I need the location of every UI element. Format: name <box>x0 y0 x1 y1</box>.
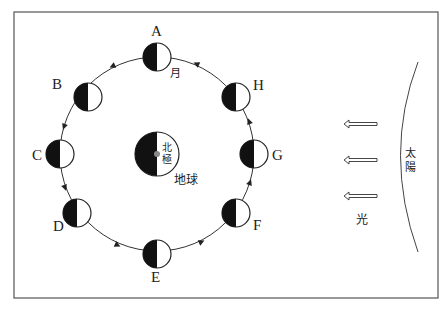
earth <box>135 132 179 176</box>
north-pole-dot <box>154 151 160 157</box>
light-arrow-icon <box>344 120 377 128</box>
label-C: C <box>32 147 42 163</box>
light-arrow-icon <box>344 192 377 200</box>
arrow-icon <box>245 117 253 125</box>
earth-label: 地球 <box>174 173 198 187</box>
arrow-icon <box>246 178 254 186</box>
label-A: A <box>151 23 162 39</box>
light-label: 光 <box>356 213 368 227</box>
label-H: H <box>253 77 264 93</box>
north-pole-label-2: 極 <box>162 153 172 165</box>
label-D: D <box>53 218 64 234</box>
moon-B <box>74 83 102 111</box>
arrow-icon <box>61 184 69 192</box>
sun-label-1: 太 <box>405 147 416 160</box>
moon-F <box>222 199 250 227</box>
moon-A <box>143 43 171 71</box>
moon-label: 月 <box>170 67 181 80</box>
moon-D <box>63 199 91 227</box>
label-F: F <box>253 217 261 233</box>
label-G: G <box>272 147 283 163</box>
moon-G <box>240 140 268 168</box>
label-E: E <box>151 269 160 285</box>
light-arrows <box>344 120 377 200</box>
sun-label-2: 陽 <box>405 161 416 174</box>
moon-H <box>222 83 250 111</box>
north-pole-label-1: 北 <box>162 142 172 153</box>
label-B: B <box>52 76 62 92</box>
moon-E <box>143 240 171 268</box>
arrow-icon <box>60 123 68 131</box>
moon-phase-diagram: A B C D E F G H 月 北 極 地球 光 太 陽 <box>0 0 446 309</box>
light-arrow-icon <box>344 156 377 164</box>
diagram-frame <box>14 12 438 298</box>
moon-C <box>46 140 74 168</box>
